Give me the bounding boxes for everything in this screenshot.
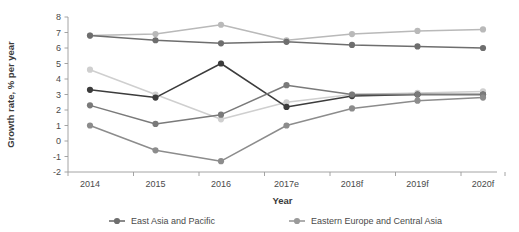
series-marker [87,33,93,39]
y-tick-label: 8 [56,12,61,22]
y-tick-label: 3 [56,90,61,100]
legend-marker-1 [294,218,300,224]
y-tick-label: 0 [56,136,61,146]
series-marker [283,39,289,45]
legend-marker-0 [114,218,120,224]
series-marker [349,91,355,97]
series-marker [414,28,420,34]
x-tick-label: 2020f [472,179,495,189]
series-marker [349,42,355,48]
series-marker [87,102,93,108]
series-marker [152,121,158,127]
series-marker [218,40,224,46]
series-marker [87,87,93,93]
series-marker [218,60,224,66]
y-tick-label: 2 [56,105,61,115]
x-tick-label: 2019f [406,179,429,189]
series-marker [480,45,486,51]
y-tick-label: -2 [53,167,61,177]
series-marker [349,31,355,37]
legend-label-0: East Asia and Pacific [131,216,216,226]
series-marker [480,26,486,32]
series-marker [152,37,158,43]
series-marker [283,122,289,128]
series-marker [283,104,289,110]
series-marker [349,105,355,111]
series-marker [152,95,158,101]
series-marker [218,158,224,164]
series-marker [283,82,289,88]
series-marker [480,95,486,101]
series-marker [87,122,93,128]
series-marker [152,31,158,37]
series-marker [414,43,420,49]
chart-canvas: 876543210-1-22014201520162017e2018f2019f… [0,0,519,232]
series-marker [414,91,420,97]
x-axis-title: Year [272,195,292,206]
x-tick-label: 2014 [80,179,100,189]
y-tick-label: 4 [56,74,61,84]
y-axis-title: Growth rate, % per year [5,41,16,148]
y-tick-label: 5 [56,59,61,69]
series-marker [414,98,420,104]
y-tick-label: 6 [56,43,61,53]
y-tick-label: 7 [56,28,61,38]
y-tick-label: 1 [56,121,61,131]
series-marker [218,112,224,118]
series-marker [218,22,224,28]
x-tick-label: 2016 [211,179,231,189]
series-marker [87,67,93,73]
x-tick-label: 2017e [274,179,299,189]
x-tick-label: 2015 [145,179,165,189]
x-tick-label: 2018f [341,179,364,189]
growth-rate-line-chart: 876543210-1-22014201520162017e2018f2019f… [0,0,519,232]
series-marker [152,147,158,153]
y-tick-label: -1 [53,152,61,162]
legend-label-1: Eastern Europe and Central Asia [311,216,442,226]
